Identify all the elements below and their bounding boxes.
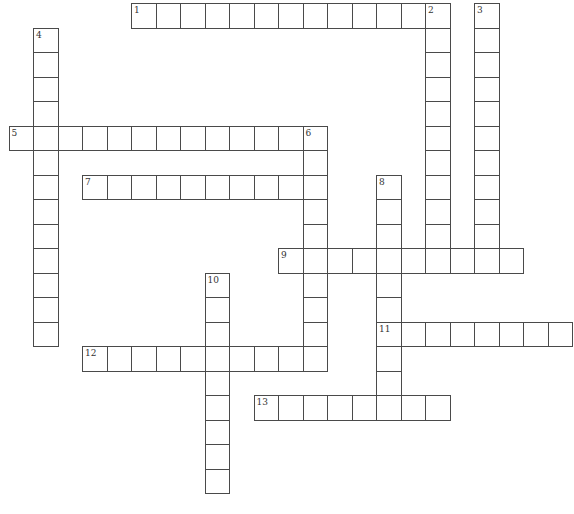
crossword-cell[interactable] xyxy=(376,346,402,372)
crossword-cell[interactable] xyxy=(352,248,378,274)
crossword-cell[interactable] xyxy=(254,346,280,372)
crossword-cell[interactable] xyxy=(180,175,206,201)
crossword-cell[interactable] xyxy=(474,52,500,78)
crossword-cell[interactable] xyxy=(107,175,133,201)
crossword-cell[interactable]: 3 xyxy=(474,3,500,29)
crossword-cell[interactable] xyxy=(33,101,59,127)
crossword-cell[interactable] xyxy=(499,322,525,348)
crossword-cell[interactable] xyxy=(376,248,402,274)
crossword-cell[interactable] xyxy=(327,3,353,29)
crossword-cell[interactable] xyxy=(376,199,402,225)
crossword-cell[interactable]: 8 xyxy=(376,175,402,201)
crossword-cell[interactable] xyxy=(376,3,402,29)
crossword-cell[interactable] xyxy=(107,126,133,152)
crossword-cell[interactable] xyxy=(229,3,255,29)
crossword-cell[interactable] xyxy=(401,3,427,29)
crossword-cell[interactable] xyxy=(303,150,329,176)
crossword-cell[interactable] xyxy=(205,126,231,152)
crossword-cell[interactable] xyxy=(156,346,182,372)
crossword-cell[interactable] xyxy=(425,224,451,250)
crossword-cell[interactable] xyxy=(33,126,59,152)
crossword-cell[interactable] xyxy=(303,175,329,201)
crossword-cell[interactable] xyxy=(376,395,402,421)
crossword-cell[interactable] xyxy=(131,175,157,201)
crossword-cell[interactable] xyxy=(58,126,84,152)
crossword-cell[interactable] xyxy=(548,322,574,348)
crossword-cell[interactable] xyxy=(303,3,329,29)
crossword-cell[interactable] xyxy=(425,199,451,225)
crossword-cell[interactable] xyxy=(205,297,231,323)
crossword-cell[interactable] xyxy=(131,126,157,152)
crossword-cell[interactable] xyxy=(474,199,500,225)
crossword-cell[interactable] xyxy=(303,273,329,299)
crossword-cell[interactable] xyxy=(180,126,206,152)
crossword-cell[interactable] xyxy=(425,150,451,176)
crossword-cell[interactable] xyxy=(180,346,206,372)
crossword-cell[interactable] xyxy=(327,395,353,421)
crossword-cell[interactable] xyxy=(82,126,108,152)
crossword-cell[interactable] xyxy=(450,248,476,274)
crossword-cell[interactable] xyxy=(425,248,451,274)
crossword-cell[interactable] xyxy=(33,224,59,250)
crossword-cell[interactable] xyxy=(474,224,500,250)
crossword-cell[interactable] xyxy=(205,175,231,201)
crossword-cell[interactable]: 6 xyxy=(303,126,329,152)
crossword-cell[interactable] xyxy=(205,322,231,348)
crossword-cell[interactable] xyxy=(180,3,206,29)
crossword-cell[interactable] xyxy=(376,371,402,397)
crossword-cell[interactable] xyxy=(450,322,476,348)
crossword-cell[interactable] xyxy=(474,126,500,152)
crossword-cell[interactable] xyxy=(205,444,231,470)
crossword-cell[interactable] xyxy=(303,322,329,348)
crossword-cell[interactable] xyxy=(205,469,231,495)
crossword-cell[interactable] xyxy=(401,395,427,421)
crossword-cell[interactable] xyxy=(474,150,500,176)
crossword-cell[interactable] xyxy=(303,346,329,372)
crossword-cell[interactable] xyxy=(33,248,59,274)
crossword-cell[interactable]: 5 xyxy=(9,126,35,152)
crossword-cell[interactable] xyxy=(278,395,304,421)
crossword-cell[interactable] xyxy=(254,3,280,29)
crossword-cell[interactable] xyxy=(156,126,182,152)
crossword-cell[interactable] xyxy=(474,175,500,201)
crossword-cell[interactable] xyxy=(376,273,402,299)
crossword-cell[interactable] xyxy=(376,224,402,250)
crossword-cell[interactable] xyxy=(425,322,451,348)
crossword-cell[interactable] xyxy=(131,346,157,372)
crossword-cell[interactable] xyxy=(205,420,231,446)
crossword-cell[interactable]: 2 xyxy=(425,3,451,29)
crossword-cell[interactable] xyxy=(303,395,329,421)
crossword-cell[interactable]: 11 xyxy=(376,322,402,348)
crossword-cell[interactable]: 7 xyxy=(82,175,108,201)
crossword-cell[interactable]: 10 xyxy=(205,273,231,299)
crossword-cell[interactable]: 13 xyxy=(254,395,280,421)
crossword-cell[interactable] xyxy=(254,175,280,201)
crossword-cell[interactable] xyxy=(474,322,500,348)
crossword-cell[interactable] xyxy=(33,150,59,176)
crossword-cell[interactable]: 12 xyxy=(82,346,108,372)
crossword-cell[interactable] xyxy=(352,3,378,29)
crossword-cell[interactable] xyxy=(425,395,451,421)
crossword-cell[interactable] xyxy=(474,248,500,274)
crossword-cell[interactable] xyxy=(474,101,500,127)
crossword-cell[interactable] xyxy=(33,297,59,323)
crossword-cell[interactable] xyxy=(376,297,402,323)
crossword-cell[interactable]: 4 xyxy=(33,28,59,54)
crossword-cell[interactable] xyxy=(205,371,231,397)
crossword-cell[interactable]: 9 xyxy=(278,248,304,274)
crossword-cell[interactable] xyxy=(205,395,231,421)
crossword-cell[interactable] xyxy=(425,52,451,78)
crossword-cell[interactable] xyxy=(352,395,378,421)
crossword-cell[interactable] xyxy=(156,3,182,29)
crossword-cell[interactable] xyxy=(156,175,182,201)
crossword-cell[interactable] xyxy=(33,52,59,78)
crossword-cell[interactable] xyxy=(523,322,549,348)
crossword-cell[interactable] xyxy=(474,77,500,103)
crossword-cell[interactable] xyxy=(254,126,280,152)
crossword-cell[interactable] xyxy=(229,346,255,372)
crossword-cell[interactable] xyxy=(499,248,525,274)
crossword-cell[interactable] xyxy=(425,126,451,152)
crossword-cell[interactable] xyxy=(278,346,304,372)
crossword-cell[interactable] xyxy=(303,248,329,274)
crossword-cell[interactable] xyxy=(303,224,329,250)
